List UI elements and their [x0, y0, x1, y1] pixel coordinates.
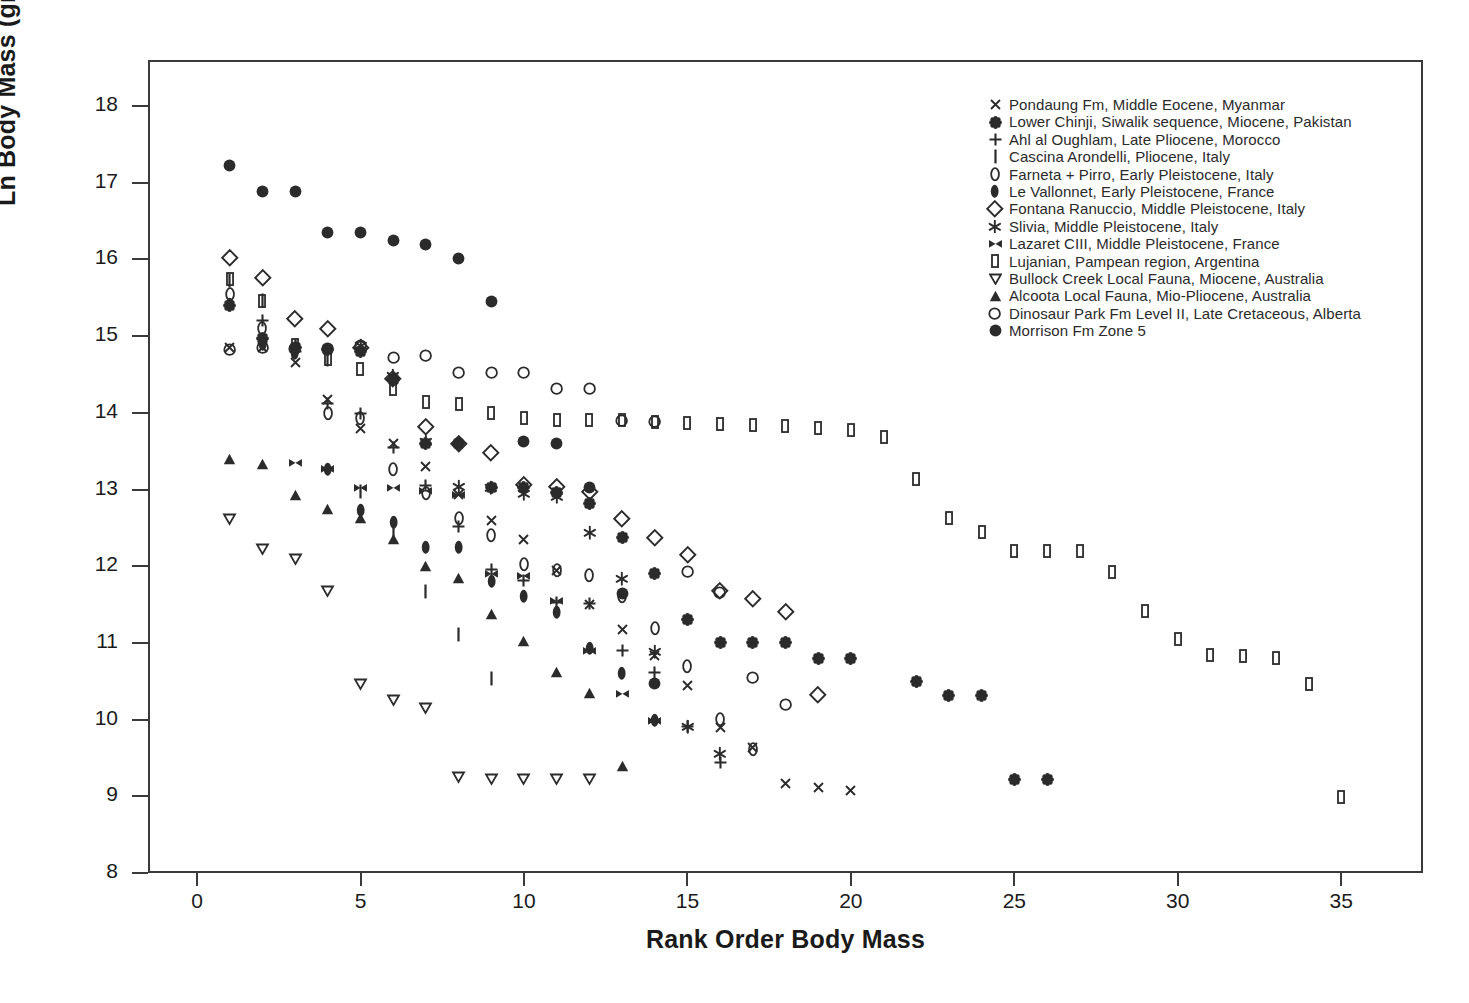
- legend-item-label: Dinosaur Park Fm Level II, Late Cretaceo…: [1009, 305, 1361, 322]
- legend-item-label: Slivia, Middle Pleistocene, Italy: [1009, 218, 1218, 235]
- cross-x-icon: [982, 96, 1008, 113]
- legend-item-label: Lazaret CIII, Middle Pleistocene, France: [1009, 235, 1280, 252]
- y-tick-label: 10: [72, 706, 118, 730]
- y-tick-mark: [132, 412, 148, 414]
- x-tick-mark: [850, 873, 852, 886]
- legend-item-label: Le Vallonnet, Early Pleistocene, France: [1009, 183, 1274, 200]
- x-tick-mark: [1013, 873, 1015, 886]
- y-tick-label: 16: [72, 245, 118, 269]
- legend-item-label: Farneta + Pirro, Early Pleistocene, Ital…: [1009, 166, 1274, 183]
- x-tick-mark: [360, 873, 362, 886]
- legend-item[interactable]: Le Vallonnet, Early Pleistocene, France: [982, 183, 1422, 200]
- x-tick-mark: [523, 873, 525, 886]
- legend-item[interactable]: Dinosaur Park Fm Level II, Late Cretaceo…: [982, 305, 1422, 322]
- legend-item[interactable]: Slivia, Middle Pleistocene, Italy: [982, 218, 1422, 235]
- y-tick-mark: [132, 795, 148, 797]
- bowtie-icon: [982, 235, 1008, 252]
- legend-item-label: Pondaung Fm, Middle Eocene, Myanmar: [1009, 96, 1285, 113]
- flower-icon: [982, 113, 1008, 130]
- vertical-bar-icon: [982, 148, 1008, 165]
- y-tick-label: 9: [72, 782, 118, 806]
- chart-legend: Pondaung Fm, Middle Eocene, MyanmarLower…: [982, 96, 1422, 339]
- x-tick-mark: [1340, 873, 1342, 886]
- y-tick-mark: [132, 182, 148, 184]
- y-tick-label: 18: [72, 92, 118, 116]
- y-tick-label: 11: [72, 629, 118, 653]
- x-tick-label: 15: [657, 889, 717, 913]
- y-tick-mark: [132, 335, 148, 337]
- chart-figure: Ln Body Mass (grams) 8910111213141516171…: [0, 0, 1469, 1003]
- legend-item[interactable]: Lazaret CIII, Middle Pleistocene, France: [982, 235, 1422, 252]
- diamond-outline-icon: [982, 200, 1008, 217]
- x-axis-title: Rank Order Body Mass: [148, 925, 1423, 954]
- triangle-down-icon: [982, 270, 1008, 287]
- x-tick-mark: [686, 873, 688, 886]
- x-tick-mark: [1177, 873, 1179, 886]
- circle-filled-icon: [982, 322, 1008, 339]
- y-tick-label: 8: [72, 859, 118, 883]
- legend-item-label: Lujanian, Pampean region, Argentina: [1009, 253, 1259, 270]
- legend-item[interactable]: Farneta + Pirro, Early Pleistocene, Ital…: [982, 166, 1422, 183]
- y-tick-label: 15: [72, 322, 118, 346]
- legend-item-label: Alcoota Local Fauna, Mio-Pliocene, Austr…: [1009, 287, 1311, 304]
- legend-item[interactable]: Morrison Fm Zone 5: [982, 322, 1422, 339]
- y-tick-mark: [132, 258, 148, 260]
- legend-item[interactable]: Lujanian, Pampean region, Argentina: [982, 253, 1422, 270]
- oval-outline-icon: [982, 166, 1008, 183]
- legend-item-label: Lower Chinji, Siwalik sequence, Miocene,…: [1009, 113, 1352, 130]
- legend-item[interactable]: Bullock Creek Local Fauna, Miocene, Aust…: [982, 270, 1422, 287]
- x-tick-label: 10: [494, 889, 554, 913]
- legend-item[interactable]: Lower Chinji, Siwalik sequence, Miocene,…: [982, 113, 1422, 130]
- legend-item-label: Ahl al Oughlam, Late Pliocene, Morocco: [1009, 131, 1280, 148]
- y-tick-label: 14: [72, 399, 118, 423]
- legend-item[interactable]: Fontana Ranuccio, Middle Pleistocene, It…: [982, 200, 1422, 217]
- y-tick-mark: [132, 565, 148, 567]
- triangle-up-icon: [982, 287, 1008, 304]
- oval-filled-icon: [982, 183, 1008, 200]
- star-icon: [982, 218, 1008, 235]
- y-tick-mark: [132, 872, 148, 874]
- legend-item[interactable]: Ahl al Oughlam, Late Pliocene, Morocco: [982, 131, 1422, 148]
- legend-item[interactable]: Alcoota Local Fauna, Mio-Pliocene, Austr…: [982, 287, 1422, 304]
- legend-item[interactable]: Pondaung Fm, Middle Eocene, Myanmar: [982, 96, 1422, 113]
- legend-item-label: Morrison Fm Zone 5: [1009, 322, 1146, 339]
- legend-item-label: Cascina Arondelli, Pliocene, Italy: [1009, 148, 1230, 165]
- legend-item-label: Fontana Ranuccio, Middle Pleistocene, It…: [1009, 200, 1305, 217]
- y-tick-mark: [132, 105, 148, 107]
- y-axis-title: Ln Body Mass (grams): [0, 0, 21, 300]
- y-tick-mark: [132, 489, 148, 491]
- x-tick-mark: [196, 873, 198, 886]
- circle-outline-icon: [982, 305, 1008, 322]
- legend-item-label: Bullock Creek Local Fauna, Miocene, Aust…: [1009, 270, 1324, 287]
- y-tick-label: 17: [72, 169, 118, 193]
- legend-item[interactable]: Cascina Arondelli, Pliocene, Italy: [982, 148, 1422, 165]
- y-tick-label: 13: [72, 476, 118, 500]
- x-tick-label: 5: [331, 889, 391, 913]
- x-tick-label: 0: [167, 889, 227, 913]
- x-tick-label: 20: [821, 889, 881, 913]
- y-tick-label: 12: [72, 552, 118, 576]
- x-tick-label: 25: [984, 889, 1044, 913]
- plus-icon: [982, 131, 1008, 148]
- rect-outline-icon: [982, 253, 1008, 270]
- x-tick-label: 30: [1148, 889, 1208, 913]
- y-tick-mark: [132, 642, 148, 644]
- y-tick-mark: [132, 719, 148, 721]
- x-tick-label: 35: [1311, 889, 1371, 913]
